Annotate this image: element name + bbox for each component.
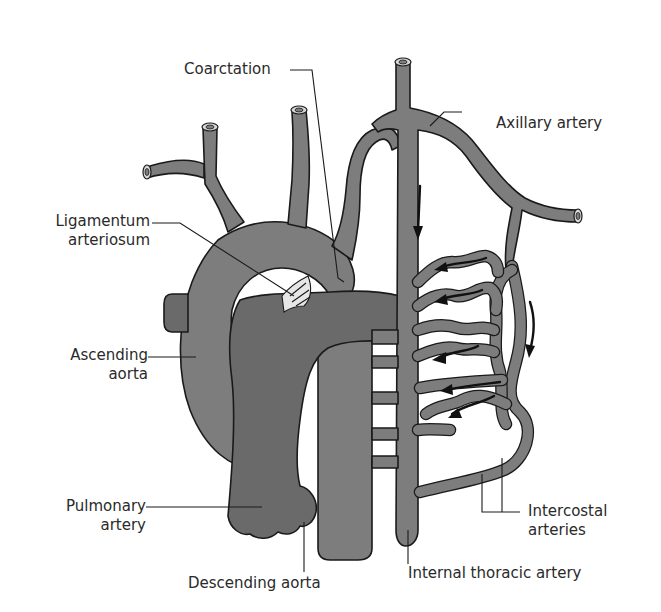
- vessel-opening: [206, 125, 214, 129]
- label-ligamentum-line2: arteriosum: [34, 231, 150, 250]
- rib-rungs: [372, 330, 398, 468]
- vessel-stub-left: [164, 294, 188, 332]
- label-intercostal-arteries: Intercostal arteries: [528, 502, 607, 540]
- label-ligamentum-arteriosum: Ligamentum arteriosum: [34, 212, 150, 250]
- label-pulmonary-line2: artery: [40, 516, 146, 535]
- label-ascending-aorta: Ascending aorta: [40, 346, 148, 384]
- vessel-opening: [576, 213, 580, 220]
- label-coarctation: Coarctation: [184, 60, 271, 79]
- brachiocephalic-artery: [203, 128, 244, 232]
- left-carotid-artery: [288, 110, 309, 228]
- label-ascending-line1: Ascending: [40, 346, 148, 365]
- pulmonary-artery-shape: [228, 291, 400, 538]
- right-subclavian-branch: [147, 160, 204, 178]
- left-subclavian-artery: [332, 127, 400, 260]
- vessel-opening: [295, 108, 303, 112]
- label-pulmonary-artery: Pulmonary artery: [40, 497, 146, 535]
- label-ascending-line2: aorta: [40, 365, 148, 384]
- label-intercostal-line2: arteries: [528, 521, 607, 540]
- label-intercostal-line1: Intercostal: [528, 502, 607, 521]
- label-descending-aorta: Descending aorta: [188, 574, 321, 593]
- label-ligamentum-line1: Ligamentum: [34, 212, 150, 231]
- label-pulmonary-line1: Pulmonary: [40, 497, 146, 516]
- vessel-opening: [145, 169, 149, 176]
- arrow-head-icon: [525, 344, 535, 358]
- descending-aorta-shape: [318, 330, 372, 560]
- vessel-opening: [399, 60, 407, 64]
- label-axillary-artery: Axillary artery: [496, 114, 602, 133]
- label-internal-thoracic-artery: Internal thoracic artery: [408, 564, 581, 583]
